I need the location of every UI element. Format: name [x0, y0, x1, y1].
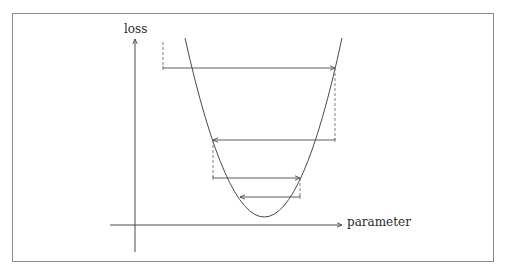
descent-steps — [163, 42, 335, 197]
loss-curve — [185, 38, 342, 217]
gradient-descent-diagram — [0, 0, 505, 272]
y-axis-label: loss — [124, 22, 147, 36]
x-axis-label: parameter — [347, 215, 411, 229]
